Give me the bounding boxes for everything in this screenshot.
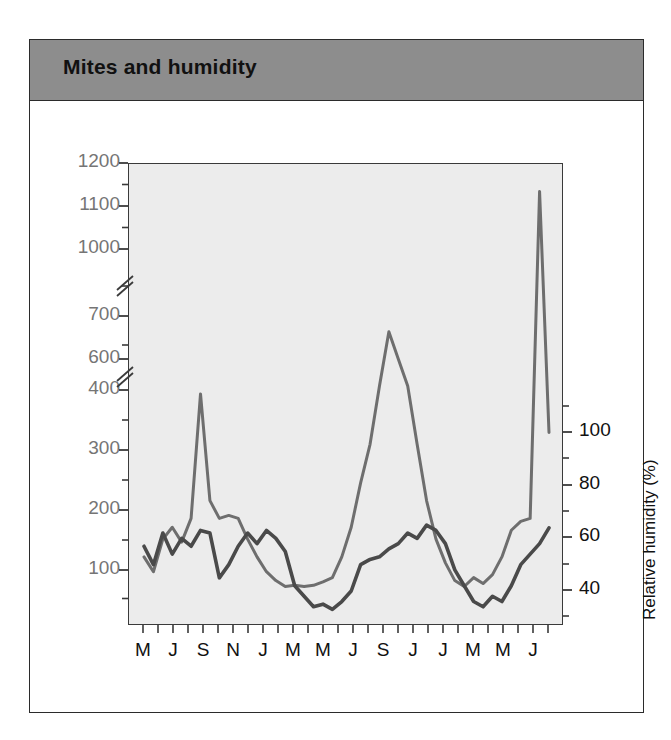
y-tick-label-700: 700	[88, 303, 120, 325]
y2-tick-label-40: 40	[579, 577, 600, 599]
y-axis-title-right: Relative humidity (%)	[640, 360, 660, 620]
series-line-mite-density	[144, 192, 549, 587]
y2-tick-label-100: 100	[579, 419, 611, 441]
y-tick-label-200: 200	[88, 497, 120, 519]
y-tick-label-300: 300	[88, 437, 120, 459]
chart-canvas	[129, 164, 564, 626]
page-title: Mites and humidity	[63, 55, 257, 79]
y-tick-label-100: 100	[88, 557, 120, 579]
y2-tick-label-60: 60	[579, 524, 600, 546]
y-tick-label-1000: 1000	[78, 236, 120, 258]
y-tick-label-400: 400	[88, 377, 120, 399]
figure-root: Mites and humidity Mites/gram dust Relat…	[0, 0, 671, 740]
x-tick-label-13: J	[513, 639, 553, 661]
y-tick-label-1100: 1100	[79, 193, 120, 215]
y-tick-label-600: 600	[88, 346, 120, 368]
y-tick-label-1200: 1200	[78, 150, 120, 172]
y2-tick-label-80: 80	[579, 472, 600, 494]
plot-area	[128, 163, 563, 625]
